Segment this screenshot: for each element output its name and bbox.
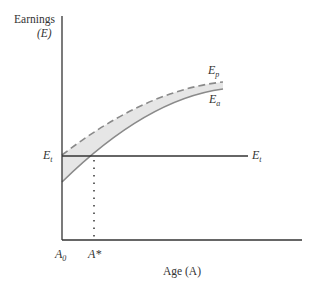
- x-axis-label: Age (A): [163, 266, 201, 278]
- y-axis-label: Earnings: [14, 14, 55, 26]
- astar-label: A*: [88, 248, 101, 260]
- y-axis-symbol: (E): [37, 28, 52, 40]
- shaded-gap-region: [62, 82, 223, 182]
- diagram-canvas: [0, 0, 315, 286]
- et-left-label: Et: [43, 149, 53, 164]
- ep-label: Ep: [208, 64, 219, 79]
- ea-curve: [62, 89, 223, 182]
- et-right-label: Et: [252, 149, 262, 164]
- earnings-age-diagram: Earnings (E) Ep Ea Et Et A0 A* Age (A): [0, 0, 315, 286]
- a0-label: A0: [55, 248, 66, 263]
- ea-label: Ea: [209, 93, 220, 108]
